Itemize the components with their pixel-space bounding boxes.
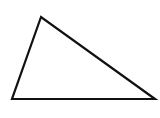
diagram-canvas <box>0 0 160 118</box>
triangle-diagram <box>0 0 160 118</box>
triangle-shape <box>12 17 155 99</box>
